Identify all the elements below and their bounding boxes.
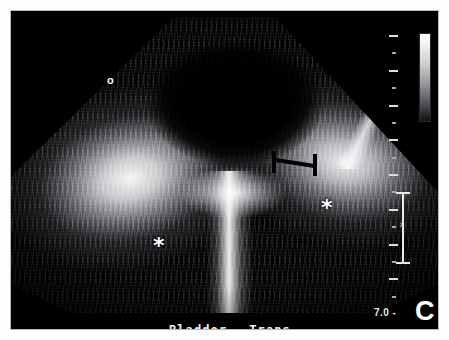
depth-tick-minor [392, 296, 396, 298]
depth-tick-major [389, 278, 398, 280]
caliper-bar [274, 158, 316, 169]
depth-tick-dash: - [392, 307, 396, 318]
depth-tick-major [389, 35, 398, 37]
grayscale-reference-bar [420, 34, 430, 121]
asterisk-marker-left: * [153, 235, 165, 257]
circle-marker-icon: o [107, 75, 114, 86]
depth-tick-major [389, 244, 398, 246]
ultrasound-figure: * * o x 7.0- C BladderTrans [0, 0, 449, 340]
depth-tick-minor [392, 122, 396, 124]
depth-tick-minor [392, 261, 396, 263]
scan-caption: BladderTrans [119, 309, 291, 329]
depth-tick-minor [392, 87, 396, 89]
depth-tick-major [389, 174, 398, 176]
depth-tick-minor [392, 52, 396, 54]
asterisk-marker-right: * [321, 197, 333, 219]
caliper-cap-right [313, 154, 317, 176]
ultrasound-sector-fan [11, 11, 438, 329]
caption-organ: Bladder [169, 323, 227, 329]
depth-tick-major [389, 209, 398, 211]
depth-tick-major [389, 70, 398, 72]
depth-value: 7.0 [374, 307, 389, 318]
panel-letter-label: C [415, 298, 435, 325]
caliper-measurement-marker [271, 150, 319, 176]
depth-tick-minor [392, 157, 396, 159]
depth-tick-major [389, 139, 398, 141]
sector-vignette [11, 11, 438, 329]
depth-scale-ticks [389, 35, 405, 313]
ultrasound-scan-image: * * o x 7.0- C BladderTrans [11, 11, 438, 329]
depth-tick-minor [392, 191, 396, 193]
depth-scale-label: 7.0- [374, 307, 396, 318]
depth-tick-minor [392, 226, 396, 228]
depth-tick-major [389, 105, 398, 107]
caption-plane: Trans [249, 323, 291, 329]
